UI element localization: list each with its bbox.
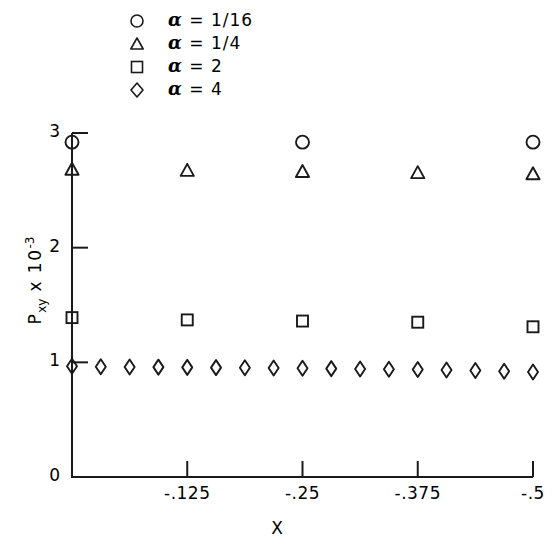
data-point-alpha-4-2 bbox=[125, 359, 135, 374]
y-tick-label-3: 3 bbox=[36, 121, 60, 141]
plot-area bbox=[0, 0, 555, 557]
axis-frame bbox=[72, 133, 533, 477]
data-point-alpha-1-4-3 bbox=[411, 166, 424, 178]
y-axis-title-mid: x 10 bbox=[25, 249, 45, 299]
y-tick-label-0: 0 bbox=[36, 465, 60, 485]
x-axis-title: X bbox=[0, 518, 555, 538]
data-point-alpha-1-4-1 bbox=[181, 164, 194, 176]
data-point-alpha-4-12 bbox=[413, 362, 423, 377]
data-point-alpha-4-16 bbox=[528, 364, 538, 379]
data-point-alpha-2-4 bbox=[528, 321, 539, 332]
data-point-alpha-4-4 bbox=[182, 360, 192, 375]
data-point-alpha-4-8 bbox=[298, 361, 308, 376]
tick-marks bbox=[72, 133, 533, 477]
data-point-alpha-4-10 bbox=[355, 361, 365, 376]
data-point-alpha-1-4-2 bbox=[296, 165, 309, 177]
data-point-alpha-4-11 bbox=[384, 362, 394, 377]
x-tick-label--.5: -.5 bbox=[498, 483, 555, 503]
data-point-alpha-2-2 bbox=[297, 316, 308, 327]
data-point-alpha-4-5 bbox=[211, 360, 221, 375]
data-point-alpha-4-15 bbox=[499, 364, 509, 379]
data-point-alpha-4-14 bbox=[470, 363, 480, 378]
y-axis-title-base: P bbox=[25, 313, 45, 325]
data-point-alpha-4-1 bbox=[96, 359, 106, 374]
data-point-alpha-1-16-2 bbox=[527, 136, 540, 149]
data-point-alpha-2-3 bbox=[412, 317, 423, 328]
data-point-alpha-4-6 bbox=[240, 360, 250, 375]
y-axis-title: Pxy x 10-3 bbox=[23, 201, 48, 361]
data-markers bbox=[65, 136, 539, 380]
x-tick-label--.375: -.375 bbox=[383, 483, 453, 503]
data-point-alpha-2-1 bbox=[182, 314, 193, 325]
data-point-alpha-4-13 bbox=[442, 363, 452, 378]
data-point-alpha-4-3 bbox=[153, 360, 163, 375]
scatter-chart-figure: α = 1/16 α = 1/4 α = 2 bbox=[0, 0, 555, 557]
x-tick-label--.25: -.25 bbox=[268, 483, 338, 503]
data-point-alpha-1-16-1 bbox=[296, 136, 309, 149]
y-axis-title-exp: -3 bbox=[23, 237, 37, 249]
y-axis-title-sub: xy bbox=[35, 299, 49, 313]
data-point-alpha-1-4-4 bbox=[526, 167, 539, 179]
x-tick-label--.125: -.125 bbox=[152, 483, 222, 503]
data-point-alpha-4-9 bbox=[326, 361, 336, 376]
data-point-alpha-4-7 bbox=[269, 361, 279, 376]
